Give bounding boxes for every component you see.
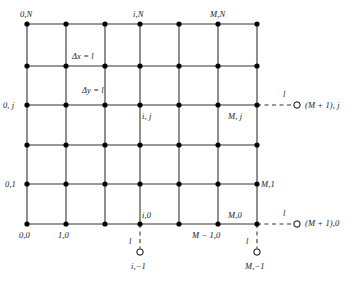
grid-node-3-2	[137, 102, 142, 107]
grid-node-0-3	[24, 142, 29, 147]
grid-node-0-0	[24, 21, 29, 26]
grid-node-5-0	[215, 21, 220, 26]
grid-node-3-5	[137, 221, 142, 226]
grid-node-6-1	[254, 63, 259, 68]
grid-node-5-5	[215, 221, 220, 226]
grid-node-6-2	[254, 102, 259, 107]
ghost-bottom-m-label: M,−1	[245, 262, 265, 271]
grid-node-1-3	[63, 142, 68, 147]
ghost-right-j-label: (M + 1), j	[305, 101, 340, 110]
node-label-bottom-m0: M,0	[228, 211, 242, 220]
grid-node-5-2	[215, 102, 220, 107]
grid-nodes	[24, 21, 259, 226]
grid-node-4-1	[176, 63, 181, 68]
node-label-interior-ij: i, j	[142, 112, 151, 121]
grid-node-5-4	[215, 181, 220, 186]
ghost-right-0-length-label: l	[283, 209, 285, 218]
finite-difference-grid-diagram	[0, 0, 352, 281]
grid-node-2-0	[102, 21, 107, 26]
ghost-bottom-m-length-label: l	[246, 237, 248, 246]
node-label-top-i: i,N	[133, 10, 143, 19]
grid-node-4-2	[176, 102, 181, 107]
grid-node-0-2	[24, 102, 29, 107]
node-label-bottom-m-1-0: M − 1,0	[192, 231, 220, 240]
node-label-origin-top-left: 0,N	[20, 10, 32, 19]
grid-node-4-4	[176, 181, 181, 186]
ghost-right-0-label: (M + 1),0	[305, 219, 339, 228]
grid-node-3-1	[137, 63, 142, 68]
grid-node-1-4	[63, 181, 68, 186]
grid-node-6-5	[254, 221, 259, 226]
ghost-right-j-length-label: l	[283, 90, 285, 99]
grid-node-1-2	[63, 102, 68, 107]
ghost-right-j-marker	[294, 102, 300, 108]
grid-node-2-5	[102, 221, 107, 226]
ghost-bottom-m-marker	[254, 249, 260, 255]
ghost-right-0-marker	[294, 221, 300, 227]
grid-node-2-2	[102, 102, 107, 107]
grid-node-6-3	[254, 142, 259, 147]
spacing-label-dy: Δy = l	[82, 86, 104, 95]
ghost-bottom-i-marker	[137, 249, 143, 255]
node-label-right-m1: M,1	[261, 180, 275, 189]
node-label-bottom-00: 0,0	[19, 231, 30, 240]
grid-node-5-1	[215, 63, 220, 68]
grid-node-6-4	[254, 181, 259, 186]
grid-node-4-3	[176, 142, 181, 147]
grid-node-2-4	[102, 181, 107, 186]
node-label-top-right: M,N	[210, 10, 225, 19]
node-label-left-j: 0, j	[3, 101, 14, 110]
grid-node-1-5	[63, 221, 68, 226]
ghost-bottom-i-label: i,−1	[131, 262, 146, 271]
grid-node-5-3	[215, 142, 220, 147]
grid-node-4-5	[176, 221, 181, 226]
node-label-left-01: 0,1	[5, 180, 16, 189]
ghost-connector-dashes	[140, 105, 293, 248]
node-label-right-mj: M, j	[228, 112, 242, 121]
grid-node-3-3	[137, 142, 142, 147]
grid-node-2-1	[102, 63, 107, 68]
grid-node-3-4	[137, 181, 142, 186]
spacing-label-dx: Δx = l	[72, 52, 94, 61]
grid-node-2-3	[102, 142, 107, 147]
grid-node-0-4	[24, 181, 29, 186]
grid-node-0-1	[24, 63, 29, 68]
grid-node-1-1	[63, 63, 68, 68]
grid-horizontal-lines	[27, 24, 257, 224]
node-label-bottom-10: 1,0	[58, 231, 69, 240]
grid-node-6-0	[254, 21, 259, 26]
grid-node-3-0	[137, 21, 142, 26]
ghost-bottom-i-length-label: l	[129, 237, 131, 246]
grid-node-1-0	[63, 21, 68, 26]
grid-node-4-0	[176, 21, 181, 26]
grid-vertical-lines	[27, 24, 257, 224]
grid-node-0-5	[24, 221, 29, 226]
node-label-bottom-i0: i,0	[142, 211, 151, 220]
